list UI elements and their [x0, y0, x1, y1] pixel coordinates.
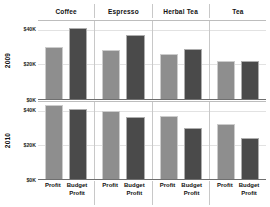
gridline-40k	[210, 30, 266, 31]
x-tick-espresso-profit: Profit	[102, 181, 118, 205]
x-tick-tea-profit: Profit	[217, 181, 233, 205]
bar-2010-tea-profit	[217, 124, 235, 179]
bar-chart: Coffee Espresso Herbal Tea Tea 2009 2010…	[0, 0, 270, 207]
bar-2010-coffee-profit	[45, 105, 63, 179]
cell-2009-coffee	[38, 21, 95, 99]
y-tick-40k-2009: $40K	[24, 26, 36, 32]
cell-2009-herbal-tea	[153, 21, 210, 99]
gridline-40k	[153, 111, 209, 112]
x-tick-line1: Profit	[102, 182, 118, 188]
x-tick-line1: Budget	[67, 182, 88, 188]
cell-2009-espresso	[95, 21, 152, 99]
x-tick-line2: Profit	[181, 190, 202, 198]
x-tick-line1: Profit	[45, 182, 61, 188]
cell-2010-espresso	[95, 102, 152, 179]
column-header-herbal-tea: Herbal Tea	[153, 4, 210, 18]
gridline-40k	[210, 111, 266, 112]
x-axis-group-espresso: Profit Budget Profit	[95, 181, 152, 205]
bar-2009-herbal-tea-profit	[160, 54, 178, 99]
x-tick-line1: Budget	[124, 182, 145, 188]
bar-2009-tea-profit	[217, 61, 235, 99]
plot-panel-2009	[38, 20, 266, 100]
x-axis-label-band: Profit Budget Profit Profit Budget Profi…	[38, 181, 266, 205]
column-header-tea: Tea	[210, 4, 266, 18]
x-axis-group-tea: Profit Budget Profit	[210, 181, 266, 205]
row-label-2010-text: 2010	[5, 133, 12, 148]
row-label-2009: 2009	[2, 20, 14, 100]
x-tick-line1: Budget	[181, 182, 202, 188]
column-header-band: Coffee Espresso Herbal Tea Tea	[38, 4, 266, 18]
bar-2010-herbal-tea-profit	[160, 116, 178, 179]
x-tick-line2: Profit	[239, 190, 260, 198]
plot-panel-2010	[38, 101, 266, 180]
y-axis-ticks-2010: $0K $20K $40K	[14, 101, 38, 180]
x-tick-herbal-tea-profit: Profit	[160, 181, 176, 205]
row-label-2010: 2010	[2, 101, 14, 180]
cell-2009-tea	[210, 21, 266, 99]
bar-2010-herbal-tea-budget-profit	[184, 128, 202, 179]
x-tick-line1: Budget	[239, 182, 260, 188]
column-header-espresso: Espresso	[95, 4, 152, 18]
bar-2009-coffee-budget-profit	[69, 28, 87, 99]
cell-2010-tea	[210, 102, 266, 179]
x-tick-coffee-profit: Profit	[45, 181, 61, 205]
x-tick-herbal-tea-budget-profit: Budget Profit	[181, 181, 202, 205]
y-tick-20k-2010: $20K	[24, 142, 36, 148]
x-axis-group-coffee: Profit Budget Profit	[38, 181, 95, 205]
x-tick-tea-budget-profit: Budget Profit	[239, 181, 260, 205]
bar-2009-espresso-budget-profit	[126, 35, 144, 99]
bar-2010-tea-budget-profit	[241, 138, 259, 179]
row-label-2009-text: 2009	[5, 52, 12, 67]
x-tick-line1: Profit	[217, 182, 233, 188]
y-axis-ticks-2009: $0K $20K $40K	[14, 20, 38, 100]
x-tick-line1: Profit	[160, 182, 176, 188]
x-tick-line2: Profit	[124, 190, 145, 198]
x-axis-group-herbal-tea: Profit Budget Profit	[153, 181, 210, 205]
y-tick-0k-2010: $0K	[26, 177, 36, 183]
x-tick-coffee-budget-profit: Budget Profit	[67, 181, 88, 205]
bar-2010-espresso-profit	[102, 111, 120, 179]
bar-2009-coffee-profit	[45, 47, 63, 99]
bar-2010-espresso-budget-profit	[126, 117, 144, 179]
gridline-40k	[95, 30, 151, 31]
bar-2009-tea-budget-profit	[241, 61, 259, 99]
y-tick-40k-2010: $40K	[24, 107, 36, 113]
y-tick-20k-2009: $20K	[24, 61, 36, 67]
x-tick-line2: Profit	[67, 190, 88, 198]
bar-2009-espresso-profit	[102, 50, 120, 99]
cell-2010-coffee	[38, 102, 95, 179]
column-header-coffee: Coffee	[38, 4, 95, 18]
bar-2010-coffee-budget-profit	[69, 109, 87, 179]
bar-2009-herbal-tea-budget-profit	[184, 49, 202, 99]
cell-2010-herbal-tea	[153, 102, 210, 179]
gridline-40k	[153, 30, 209, 31]
x-tick-espresso-budget-profit: Budget Profit	[124, 181, 145, 205]
